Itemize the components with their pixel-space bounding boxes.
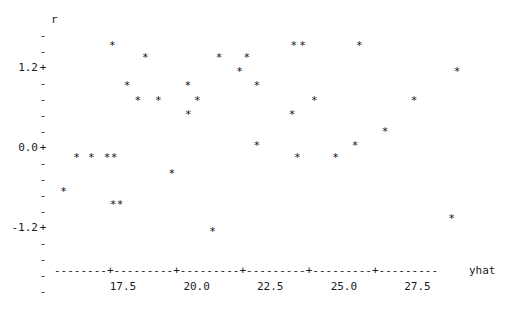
data-point-marker: * — [184, 80, 191, 91]
data-point-marker: * — [216, 52, 223, 63]
data-point-marker: * — [88, 152, 95, 163]
data-point-marker: * — [253, 140, 260, 151]
data-point-marker: * — [410, 95, 417, 106]
data-point-marker: * — [109, 40, 116, 51]
data-point-marker: * — [155, 95, 162, 106]
data-point-marker: * — [352, 140, 359, 151]
data-point-marker: * — [289, 109, 296, 120]
data-point-marker: * — [294, 152, 301, 163]
data-point-marker: * — [356, 40, 363, 51]
data-points-layer: ********************************** — [0, 0, 517, 309]
data-point-marker: * — [236, 66, 243, 77]
data-point-marker: * — [73, 152, 80, 163]
data-point-marker: * — [134, 95, 141, 106]
data-point-marker: * — [311, 95, 318, 106]
x-axis-tick-labels: 17.520.022.525.027.5 — [0, 281, 517, 295]
data-point-marker: * — [185, 109, 192, 120]
data-point-marker: * — [382, 126, 389, 137]
data-point-marker: * — [253, 80, 260, 91]
x-axis-tick-label: 17.5 — [110, 281, 137, 292]
x-axis-tick-label: 20.0 — [183, 281, 210, 292]
data-point-marker: * — [453, 66, 460, 77]
data-point-marker: * — [209, 226, 216, 237]
data-point-marker: * — [299, 40, 306, 51]
data-point-marker: * — [124, 80, 131, 91]
data-point-marker: * — [111, 152, 118, 163]
data-point-marker: * — [448, 213, 455, 224]
data-point-marker: * — [60, 186, 67, 197]
data-point-marker: * — [290, 40, 297, 51]
data-point-marker: * — [194, 95, 201, 106]
data-point-marker: * — [332, 152, 339, 163]
data-point-marker: * — [142, 52, 149, 63]
x-axis-title: yhat — [469, 265, 496, 276]
data-point-marker: * — [243, 52, 250, 63]
data-point-marker: * — [109, 199, 116, 210]
data-point-marker: * — [117, 199, 124, 210]
x-axis-tick-label: 27.5 — [404, 281, 431, 292]
data-point-marker: * — [104, 152, 111, 163]
x-axis-line: --------+---------+---------+---------+-… — [54, 265, 438, 276]
x-axis-tick-label: 22.5 — [257, 281, 284, 292]
data-point-marker: * — [168, 168, 175, 179]
x-axis-tick-label: 25.0 — [331, 281, 358, 292]
scatter-plot-figure: r --1.2+----0.0+-----1.2+---- **********… — [0, 0, 517, 309]
